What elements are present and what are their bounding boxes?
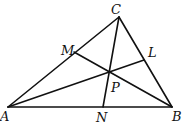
label-L: L [147,45,157,60]
segment-CA [8,17,119,107]
label-P: P [110,80,120,95]
segment-BC [119,17,172,107]
label-M: M [60,43,75,58]
label-A: A [0,109,9,124]
segments [8,17,172,107]
segment-AL [8,60,144,107]
label-B: B [171,109,182,124]
geometry-diagram: ABCMLNP [0,0,183,127]
label-N: N [95,110,108,125]
label-C: C [111,2,121,17]
